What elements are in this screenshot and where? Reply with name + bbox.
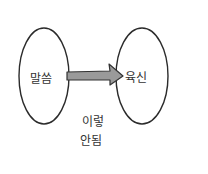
caption-line-2: 안됨 <box>80 131 102 148</box>
diagram-canvas <box>0 0 208 174</box>
left-node-label: 말씀 <box>30 69 52 86</box>
caption-line-1: 이렇 <box>82 112 104 129</box>
arrow-icon <box>67 64 123 85</box>
right-node-label: 육신 <box>125 68 147 85</box>
